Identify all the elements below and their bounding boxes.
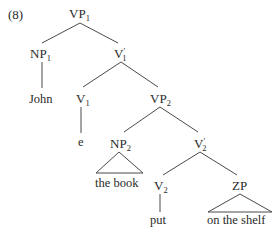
leaf-on-the-shelf: on the shelf	[207, 213, 266, 227]
triangle-zp	[208, 194, 272, 212]
node-zp: ZP	[232, 178, 247, 193]
example-number: (8)	[8, 7, 23, 22]
edge-vp1-v1bar	[80, 23, 118, 43]
edge-vp2-np2	[124, 107, 160, 132]
node-v2-bar: V′2	[194, 136, 207, 153]
edge-v2bar-v2	[163, 152, 200, 175]
triangle-np2	[96, 152, 143, 173]
node-v1-bar: V′1	[114, 46, 127, 63]
edge-v1bar-v1	[83, 62, 121, 87]
node-np2: NP2	[110, 136, 131, 153]
leaf-e: e	[78, 135, 84, 149]
leaf-john: John	[29, 92, 53, 106]
node-v2: V2	[154, 178, 168, 195]
node-vp2: VP2	[150, 91, 171, 108]
syntax-tree-diagram: (8) VP1 NP1 V′1 John V1 VP2 e NP	[0, 0, 278, 231]
leaf-put: put	[150, 213, 167, 227]
node-vp1: VP1	[69, 6, 90, 23]
edge-v2bar-zp	[200, 152, 237, 175]
node-v1: V1	[76, 91, 90, 108]
leaf-the-book: the book	[95, 176, 139, 190]
edge-vp2-v2bar	[160, 107, 198, 132]
node-np1: NP1	[30, 46, 51, 63]
edge-v1bar-vp2	[121, 62, 158, 87]
edge-vp1-np1	[42, 23, 80, 43]
